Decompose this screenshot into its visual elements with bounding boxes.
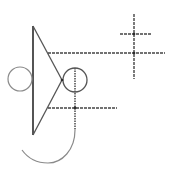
diagram-canvas (0, 0, 182, 179)
intersection-dot-cross (133, 33, 136, 36)
schematic-drawing (0, 0, 182, 179)
intersection-dot-upper (133, 52, 136, 55)
apex-dot (61, 79, 64, 82)
bottom-hook-arc (22, 130, 75, 163)
intersection-dot-lower (74, 107, 77, 110)
left-circle (8, 67, 32, 91)
